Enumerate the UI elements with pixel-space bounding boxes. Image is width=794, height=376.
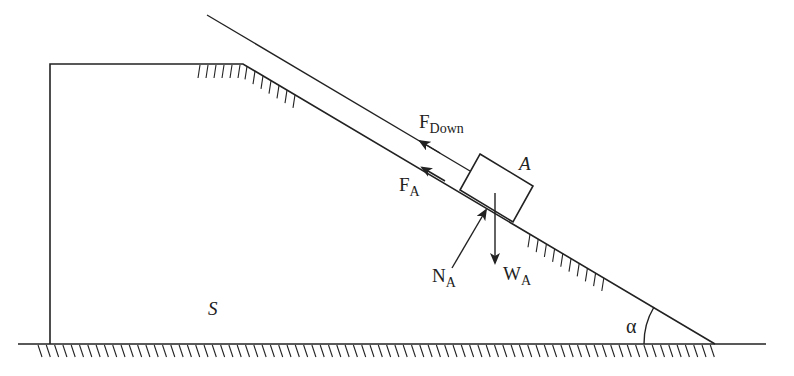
hatch-mark: [320, 345, 324, 357]
hatch-mark: [544, 345, 548, 357]
hatch-mark: [163, 345, 167, 357]
hatch-mark: [129, 345, 133, 357]
hatch-mark: [337, 345, 341, 357]
hatch-mark: [553, 345, 557, 357]
hatch-mark: [536, 239, 538, 252]
hatch-mark: [611, 345, 615, 357]
label-f-a: FA: [399, 174, 421, 199]
hatch-mark: [627, 345, 631, 357]
hatch-mark: [46, 345, 50, 357]
hatch-mark: [528, 234, 530, 247]
hatch-mark: [445, 345, 449, 357]
hatch-mark: [685, 345, 689, 357]
hatch-mark: [214, 65, 216, 78]
hatch-mark: [495, 345, 499, 357]
hatch-mark: [245, 66, 247, 79]
hatch-mark: [222, 65, 224, 78]
hatch-mark: [353, 345, 357, 357]
hatch-mark: [262, 345, 266, 357]
hatch-mark: [644, 345, 648, 357]
hatch-mark: [461, 345, 465, 357]
hatch-mark: [113, 345, 117, 357]
hatch-mark: [277, 85, 279, 98]
hatch-mark: [619, 345, 623, 357]
hatch-mark: [710, 345, 714, 357]
hatch-mark: [362, 345, 366, 357]
label-alpha: α: [626, 315, 637, 337]
hatch-mark: [121, 345, 125, 357]
hatch-mark: [511, 345, 515, 357]
hatch-mark: [536, 345, 540, 357]
hatch-mark: [585, 268, 587, 281]
hatch-mark: [230, 65, 232, 78]
hatch-mark: [577, 263, 579, 276]
hatch-mark: [578, 345, 582, 357]
hatch-mark: [702, 345, 706, 357]
label-f-down: FDown: [419, 111, 464, 136]
label-n-a: NA: [432, 265, 457, 290]
hatch-mark: [304, 345, 308, 357]
ground-hatching: [38, 345, 714, 357]
force-down-arrow: [420, 141, 440, 153]
slope-hatching-lower: [528, 234, 604, 291]
hatch-mark: [279, 345, 283, 357]
hatch-mark: [88, 345, 92, 357]
hatch-mark: [503, 345, 507, 357]
support-body: [50, 64, 715, 344]
hatch-mark: [378, 345, 382, 357]
hatch-mark: [561, 254, 563, 267]
hatch-mark: [345, 345, 349, 357]
hatch-mark: [287, 345, 291, 357]
hatch-mark: [206, 65, 208, 78]
hatch-mark: [677, 345, 681, 357]
hatch-mark: [370, 345, 374, 357]
hatch-mark: [270, 345, 274, 357]
hatch-mark: [204, 345, 208, 357]
hatch-mark: [196, 345, 200, 357]
angle-arc: [644, 307, 654, 344]
hatch-mark: [470, 345, 474, 357]
hatch-mark: [544, 244, 546, 257]
hatch-mark: [261, 76, 263, 89]
hatch-mark: [478, 345, 482, 357]
hatch-mark: [428, 345, 432, 357]
hatch-mark: [569, 345, 573, 357]
hatch-mark: [602, 345, 606, 357]
hatch-mark: [71, 345, 75, 357]
hatch-mark: [63, 345, 67, 357]
hatch-mark: [269, 81, 271, 94]
plateau-hatching: [198, 65, 240, 78]
hatch-mark: [138, 345, 142, 357]
ground: [18, 344, 766, 357]
hatch-mark: [221, 345, 225, 357]
force-normal-arrow: [452, 210, 486, 268]
label-block-a: A: [517, 153, 531, 174]
hatch-mark: [212, 345, 216, 357]
hatch-mark: [486, 345, 490, 357]
hatch-mark: [312, 345, 316, 357]
force-friction-arrow: [422, 168, 445, 182]
hatch-mark: [146, 345, 150, 357]
hatch-mark: [96, 345, 100, 357]
hatch-mark: [246, 345, 250, 357]
hatch-mark: [198, 65, 200, 78]
hatch-mark: [436, 345, 440, 357]
hatch-mark: [453, 345, 457, 357]
hatch-mark: [154, 345, 158, 357]
incline-diagram: FDown FA A NA WA S α: [0, 0, 794, 376]
hatch-mark: [586, 345, 590, 357]
hatch-mark: [661, 345, 665, 357]
hatch-mark: [636, 345, 640, 357]
hatch-mark: [238, 65, 240, 78]
hatch-mark: [253, 71, 255, 84]
hatch-mark: [171, 345, 175, 357]
hatch-mark: [229, 345, 233, 357]
hatch-mark: [594, 345, 598, 357]
slope-hatching-upper: [245, 66, 295, 107]
hatch-mark: [55, 345, 59, 357]
hatch-mark: [602, 278, 604, 291]
hatch-mark: [395, 345, 399, 357]
hatch-mark: [569, 259, 571, 272]
hatch-mark: [237, 345, 241, 357]
label-support-s: S: [208, 298, 218, 319]
